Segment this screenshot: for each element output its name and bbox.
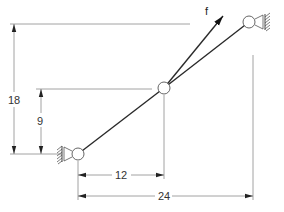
member-left: [78, 88, 164, 154]
dim-label-12: 12: [115, 169, 127, 181]
dim-label-9: 9: [37, 115, 43, 127]
force-label: f: [205, 5, 209, 17]
extension-lines: [10, 24, 253, 200]
force-arrow: f: [164, 5, 223, 88]
force-vector-icon: [164, 16, 223, 88]
left-support-icon: [57, 146, 72, 164]
dimension-vertical-9: 9: [37, 89, 43, 154]
middle-joint-icon: [158, 82, 170, 94]
dim-label-18: 18: [8, 94, 20, 106]
right-joint-icon: [243, 16, 255, 28]
dimension-horizontal-12: 12: [78, 169, 164, 181]
left-joint-icon: [72, 148, 84, 160]
member-right: [164, 22, 249, 88]
right-support-icon: [255, 13, 270, 31]
dimension-vertical-18: 18: [8, 24, 20, 154]
dimension-horizontal-24: 24: [78, 190, 253, 202]
dim-label-24: 24: [158, 190, 170, 202]
truss-diagram: 18 9 12 24 f: [0, 0, 284, 212]
